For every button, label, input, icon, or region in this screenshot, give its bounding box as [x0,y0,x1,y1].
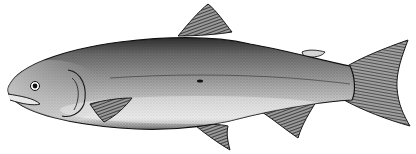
dorsal-fin [178,4,232,36]
illustration-canvas [0,0,416,154]
salmon-illustration [0,0,416,154]
pupil [33,84,38,89]
body-mark [197,80,203,83]
pelvic-fin [196,125,230,151]
